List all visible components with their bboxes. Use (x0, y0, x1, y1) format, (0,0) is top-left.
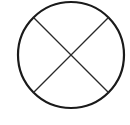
circle-x-symbol (0, 0, 130, 125)
